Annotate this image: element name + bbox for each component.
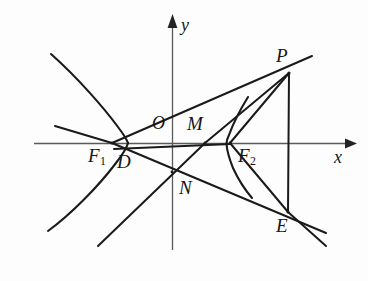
hyperbola-curves (48, 54, 252, 231)
label-P: P (276, 46, 288, 65)
segment-P-E (288, 73, 289, 212)
segment-E-extension (288, 212, 326, 246)
segment-P-F2 (230, 73, 289, 143)
point-markers (110, 71, 290, 213)
label-y-axis: y (181, 16, 189, 34)
segment-F1-P (112, 56, 312, 143)
y-axis-arrow (168, 14, 178, 28)
label-F2-subscript: 2 (250, 155, 256, 168)
x-axis-arrow (345, 139, 357, 149)
label-F1: F1 (88, 146, 106, 167)
label-F2: F2 (238, 146, 256, 167)
point-N-marker (171, 171, 174, 174)
hyperbola-figure (0, 0, 368, 281)
right-branch-upper-icon (227, 97, 249, 144)
point-F2-marker (229, 142, 232, 145)
left-branch-upper-icon (51, 54, 128, 143)
point-P-marker (287, 71, 290, 74)
label-F1-subscript: 1 (100, 155, 106, 168)
label-M: M (187, 114, 203, 133)
label-F1-letter: F (88, 145, 100, 166)
label-D: D (117, 152, 131, 171)
segment-F1-N-E (112, 143, 326, 233)
point-M-marker (204, 142, 207, 145)
label-N: N (179, 178, 192, 197)
point-E-marker (286, 210, 289, 213)
segment-F1-P-extension-left (55, 126, 112, 143)
label-E: E (276, 216, 288, 235)
label-origin-O: O (152, 114, 165, 132)
point-F1-marker (110, 141, 113, 144)
label-F2-letter: F (238, 145, 250, 166)
label-x-axis: x (334, 148, 342, 166)
